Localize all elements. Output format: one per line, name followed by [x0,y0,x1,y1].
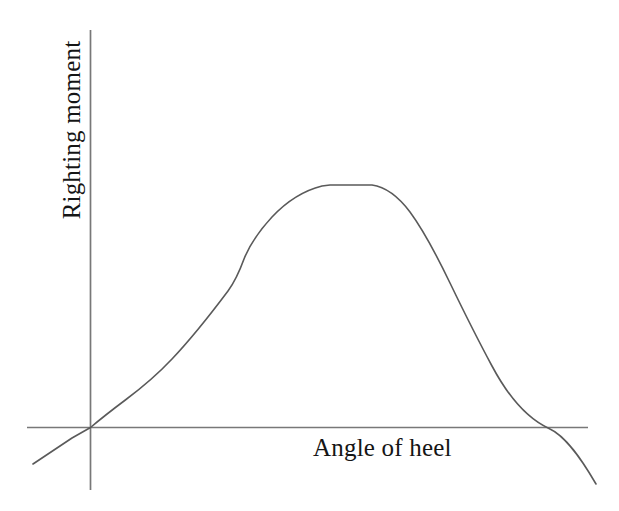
x-axis-label: Angle of heel [313,434,452,462]
y-axis-label: Righting moment [58,41,86,220]
chart-figure: Righting moment Angle of heel [0,0,619,511]
chart-plot-area [0,0,619,511]
